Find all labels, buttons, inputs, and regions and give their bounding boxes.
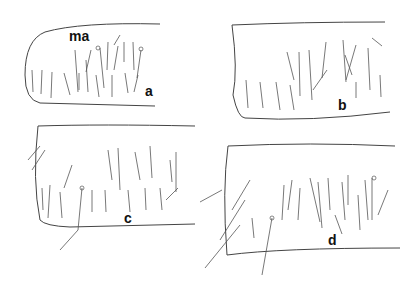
panel-b: b <box>210 0 419 125</box>
panel-d: d <box>200 130 419 290</box>
panel-label-a: a <box>145 84 153 98</box>
segment-outline-a <box>0 0 210 120</box>
panel-c: c <box>0 120 210 290</box>
panel-label-b: b <box>338 98 347 112</box>
segment-outline-d <box>200 130 419 290</box>
panel-a: ma a <box>0 0 210 120</box>
panel-label-c: c <box>124 211 132 225</box>
segment-outline-c <box>0 120 210 290</box>
panel-label-d: d <box>328 233 337 247</box>
segment-outline-b <box>210 0 419 125</box>
annotation-ma: ma <box>69 29 89 43</box>
